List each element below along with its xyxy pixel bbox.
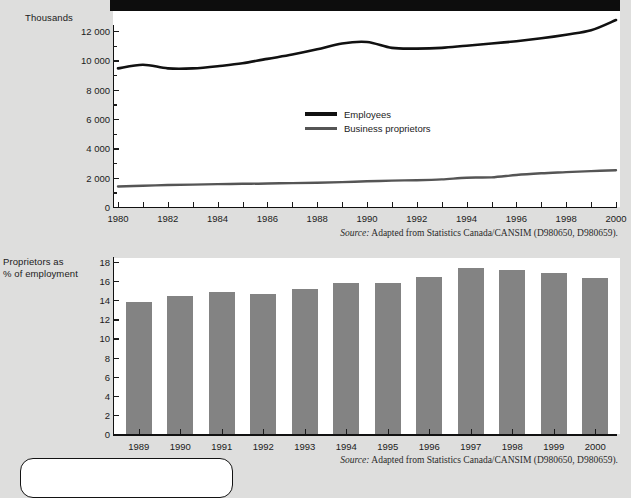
- line-chart-x-tick: [267, 202, 268, 207]
- line-chart-y-tick: [113, 90, 119, 91]
- line-chart-x-tick: [342, 202, 343, 207]
- bar-chart-y-tick: [113, 396, 119, 397]
- bar-chart-y-tick-label: 6: [66, 371, 110, 382]
- line-chart-y-tick: [113, 178, 119, 179]
- line-chart-y-tick-label: 4 000: [60, 143, 110, 154]
- line-series-business-proprietors: [118, 170, 616, 186]
- line-chart-y-tick: [113, 31, 119, 32]
- bar-chart-y-tick: [113, 415, 119, 416]
- bar-chart-y-tick-label: 10: [66, 333, 110, 344]
- line-chart-x-tick: [292, 202, 293, 207]
- line-chart-x-tick: [591, 202, 592, 207]
- bar-chart-y-tick-label: 12: [66, 314, 110, 325]
- line-chart-source-text: Adapted from Statistics Canada/CANSIM (D…: [371, 228, 618, 238]
- line-chart-x-tick: [516, 202, 517, 207]
- line-chart-y-tick: [113, 75, 117, 76]
- line-chart-x-tick: [392, 202, 393, 207]
- bar-chart-bar: [458, 268, 484, 434]
- line-chart-x-tick: [566, 202, 567, 207]
- bar-chart-y-tick-label: 4: [66, 390, 110, 401]
- bar-chart-bar: [126, 302, 152, 434]
- bar-chart-bars-container: [113, 258, 620, 434]
- bar-chart-source-prefix: Source:: [340, 455, 369, 465]
- bar-chart-x-tick: [429, 429, 430, 434]
- bar-chart-bar: [209, 292, 235, 434]
- bar-chart-panel: [113, 258, 620, 434]
- line-chart-x-axis-line: [113, 207, 617, 208]
- bar-chart-y-tick-label: 18: [66, 257, 110, 268]
- bar-chart-x-tick: [471, 429, 472, 434]
- line-chart-x-tick: [467, 202, 468, 207]
- line-chart-y-tick: [113, 134, 117, 135]
- line-chart-y-tick: [113, 148, 119, 149]
- bar-chart-source-text: Adapted from Statistics Canada/CANSIM (D…: [371, 455, 618, 465]
- bar-chart-bar: [375, 283, 401, 434]
- legend-swatch-business-proprietors: [305, 127, 337, 130]
- line-chart-x-tick: [541, 202, 542, 207]
- line-chart-y-tick: [113, 104, 117, 105]
- line-chart-x-tick: [143, 202, 144, 207]
- legend-item-employees: Employees: [305, 107, 431, 121]
- bar-chart-x-tick: [388, 429, 389, 434]
- bar-chart-axis-title-line1: Proprietors as: [3, 256, 64, 267]
- bar-chart-bar: [541, 273, 567, 434]
- bar-chart-x-tick: [263, 429, 264, 434]
- line-chart-x-tick: [118, 202, 119, 207]
- line-series-employees: [118, 20, 616, 69]
- bar-chart-y-tick-label: 2: [66, 409, 110, 420]
- line-chart-y-tick-label: 6 000: [60, 114, 110, 125]
- bar-chart-y-tick: [113, 262, 119, 263]
- line-chart-x-tick: [168, 202, 169, 207]
- bar-chart-y-tick: [113, 281, 119, 282]
- header-black-bar: [110, 0, 620, 11]
- line-chart-y-tick-label: 10 000: [60, 55, 110, 66]
- bar-chart-x-tick: [222, 429, 223, 434]
- line-chart-y-tick: [113, 119, 119, 120]
- line-chart-x-tick: [442, 202, 443, 207]
- legend-label-business-proprietors: Business proprietors: [344, 123, 431, 134]
- line-chart-y-tick: [113, 46, 117, 47]
- bar-chart-x-axis-line: [113, 434, 617, 436]
- bar-chart-bar: [416, 277, 442, 434]
- line-chart-x-tick: [317, 202, 318, 207]
- bar-chart-x-tick-label: 2000: [565, 441, 625, 452]
- line-chart-x-tick: [243, 202, 244, 207]
- line-chart-x-tick: [616, 202, 617, 207]
- bar-chart-x-tick: [346, 429, 347, 434]
- line-chart-y-tick-label: 12 000: [60, 26, 110, 37]
- bar-chart-y-tick-label: 16: [66, 276, 110, 287]
- bar-chart-bar: [582, 278, 608, 434]
- line-chart-source-prefix: Source:: [340, 228, 369, 238]
- line-chart-x-tick: [492, 202, 493, 207]
- bar-chart-bar: [250, 294, 276, 434]
- line-chart-axis-title: Thousands: [25, 12, 73, 24]
- bar-chart-y-tick: [113, 338, 119, 339]
- line-chart-x-tick: [218, 202, 219, 207]
- line-chart-x-tick: [417, 202, 418, 207]
- line-chart-y-tick: [113, 192, 117, 193]
- line-chart-y-tick-label: 2 000: [60, 172, 110, 183]
- callout-box: [20, 458, 233, 498]
- bar-chart-y-tick: [113, 358, 119, 359]
- line-chart-y-tick: [113, 163, 117, 164]
- bar-chart-bar: [333, 283, 359, 434]
- bar-chart-bar: [167, 296, 193, 434]
- line-chart-x-tick: [367, 202, 368, 207]
- bar-chart-y-tick-label: 0: [66, 429, 110, 440]
- bar-chart-bar: [499, 270, 525, 434]
- line-chart-y-tick-label: 8 000: [60, 84, 110, 95]
- bar-chart-y-axis-line: [113, 257, 114, 435]
- line-chart-legend: Employees Business proprietors: [305, 107, 431, 135]
- bar-chart-x-tick: [512, 429, 513, 434]
- legend-swatch-employees: [305, 112, 337, 115]
- bar-chart-x-tick: [139, 429, 140, 434]
- bar-chart-bar: [292, 289, 318, 434]
- line-chart-x-tick-label: 2000: [586, 213, 631, 224]
- line-chart-y-axis-line: [113, 25, 114, 208]
- bar-chart-y-tick-label: 8: [66, 352, 110, 363]
- bar-chart-x-tick: [180, 429, 181, 434]
- line-chart-x-tick: [193, 202, 194, 207]
- line-chart-y-tick: [113, 60, 119, 61]
- legend-item-business-proprietors: Business proprietors: [305, 121, 431, 135]
